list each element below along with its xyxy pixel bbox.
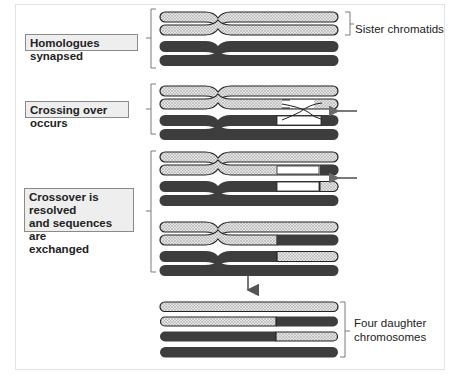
label-text: Sister chromatids — [355, 23, 444, 35]
bracket-group2 — [146, 84, 156, 134]
recombinant-daughter-chromosome — [276, 317, 338, 327]
label-homologues-synapsed: Homologues synapsed — [25, 34, 138, 51]
dark-chromatid — [160, 51, 339, 66]
dark-chromatid — [160, 41, 339, 56]
dark-chromatid — [160, 125, 339, 140]
group-crossover-resolved — [146, 151, 357, 276]
label-sister-chromatids: Sister chromatids — [355, 22, 444, 36]
dotted-daughter-chromosome — [160, 302, 338, 312]
group-homologues-synapsed — [146, 9, 354, 68]
recombinant-daughter-chromosome — [160, 332, 276, 342]
bracket-group1 — [146, 9, 156, 68]
bracket-group4 — [340, 302, 350, 357]
dark-chromatid — [160, 191, 339, 206]
label-four-daughter-chromosomes: Four daughter chromosomes — [354, 316, 426, 344]
bracket-sister-chromatids — [345, 12, 354, 35]
label-crossover-resolved: Crossover is resolved and sequences are … — [24, 188, 134, 232]
group-crossing-over — [146, 84, 357, 140]
label-text-line: Four daughter — [354, 316, 426, 330]
label-text-line: and sequences are — [29, 217, 129, 243]
label-crossing-over: Crossing over occurs — [25, 101, 129, 118]
dark-daughter-chromosome — [160, 347, 338, 358]
label-text-line: chromosomes — [354, 330, 426, 344]
label-text-line: Crossover is resolved — [29, 191, 129, 217]
bracket-group3 — [146, 151, 156, 272]
label-text-line: exchanged — [29, 243, 129, 256]
dark-chromatid — [160, 261, 339, 276]
group-daughter-chromosomes — [160, 302, 350, 358]
